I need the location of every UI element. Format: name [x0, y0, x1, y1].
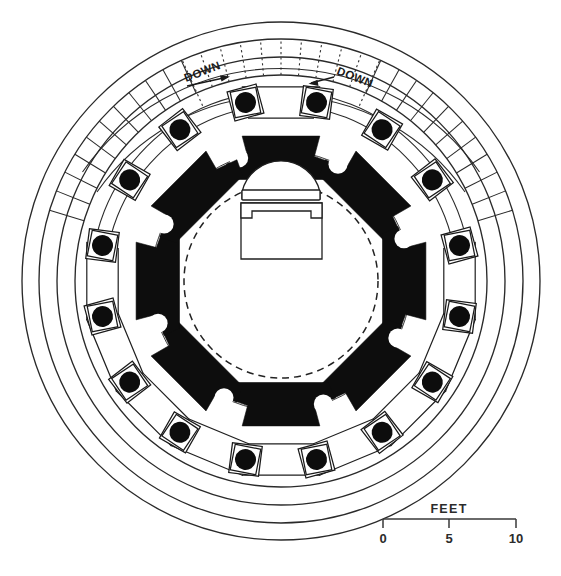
- stair-tread: [75, 154, 106, 173]
- scale-tick-0: 0: [379, 531, 386, 546]
- stair-tread: [129, 93, 152, 121]
- pier-column-niche: [215, 388, 234, 407]
- scale-tick-10: 10: [509, 531, 523, 546]
- down-annotation-right: DOWN: [309, 65, 376, 90]
- down-annotation-left: DOWN: [182, 59, 230, 86]
- outer-column: [158, 107, 202, 151]
- scale-bar-caption: FEET: [430, 502, 467, 516]
- scale-bar: FEET 0 5 10: [379, 502, 523, 546]
- pier-column-niche: [328, 155, 347, 174]
- pier-column-niche: [314, 394, 333, 413]
- stair-tread: [99, 121, 126, 145]
- stair-tread: [396, 81, 416, 111]
- outer-column: [107, 158, 151, 202]
- outer-column: [360, 107, 404, 151]
- stair-tread: [56, 191, 89, 204]
- stair-tread: [472, 191, 505, 204]
- stair-tread: [436, 121, 463, 145]
- stair-tread: [145, 81, 165, 111]
- pier-column-niche: [155, 215, 174, 234]
- stair-tread: [456, 154, 487, 173]
- altar-assembly: [241, 161, 322, 259]
- scale-tick-5: 5: [445, 531, 452, 546]
- floor-plan-drawing: DOWN DOWN FEET 0 5 10: [0, 0, 561, 576]
- outer-column: [410, 158, 454, 202]
- outer-column: [298, 84, 336, 122]
- inner-pier: [226, 383, 335, 426]
- inner-pier: [136, 226, 179, 335]
- stair-tread: [382, 70, 400, 101]
- inner-pier: [151, 151, 243, 243]
- stair-tread: [447, 137, 476, 158]
- down-arrow-head-right: [309, 80, 319, 86]
- down-label-right: DOWN: [335, 65, 375, 90]
- stair-tread: [163, 70, 181, 101]
- outer-column: [84, 227, 122, 265]
- stair-tread: [465, 172, 497, 188]
- pier-column-niche: [149, 314, 168, 333]
- stair-tread: [86, 137, 115, 158]
- floor-plan-canvas: DOWN DOWN FEET 0 5 10: [0, 0, 561, 576]
- niche-sill: [242, 190, 320, 200]
- scale-bar-rule: [383, 519, 516, 528]
- stair-tread: [410, 93, 433, 121]
- pier-column-niche: [388, 328, 407, 347]
- stair-tread: [50, 210, 84, 221]
- inner-pier: [383, 226, 426, 335]
- outer-ring-3: [57, 57, 505, 505]
- outer-column: [227, 441, 265, 479]
- pier-column-niche: [394, 229, 413, 248]
- stair-tread: [478, 210, 512, 221]
- outer-column: [441, 298, 479, 336]
- stair-tread: [65, 172, 97, 188]
